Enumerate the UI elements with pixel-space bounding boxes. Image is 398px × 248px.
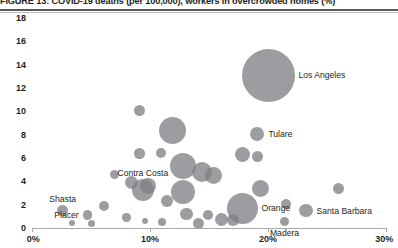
data-bubble[interactable] <box>280 217 289 226</box>
data-bubble[interactable] <box>156 148 166 158</box>
data-bubble[interactable] <box>158 218 166 226</box>
data-bubble[interactable] <box>171 180 195 204</box>
y-axis-tick-label: 4 <box>21 176 26 186</box>
data-bubble[interactable] <box>252 180 269 197</box>
data-bubble[interactable] <box>83 210 93 220</box>
x-axis-tick-label: 30% <box>375 234 393 244</box>
x-axis-line <box>32 228 386 229</box>
data-bubble[interactable] <box>250 127 264 141</box>
scatter-plot-area[interactable]: Los AngelesTulareContra CostaShastaPlace… <box>32 18 386 228</box>
data-bubble[interactable] <box>122 213 130 221</box>
y-axis-tick-label: 0 <box>21 223 26 233</box>
data-bubble[interactable] <box>299 204 313 218</box>
bubble-label-placer: Placer <box>54 210 78 220</box>
x-axis-tick <box>150 228 151 232</box>
data-bubble[interactable] <box>235 147 250 162</box>
figure-title-strip: FIGURE 13: COVID-19 deaths (per 100,000)… <box>0 0 398 9</box>
bubble-label-santa-barbara: Santa Barbara <box>317 206 372 216</box>
x-axis-tick-label: 0% <box>27 234 40 244</box>
data-bubble[interactable] <box>205 167 222 184</box>
y-axis-tick-label: 10 <box>16 106 26 116</box>
data-bubble[interactable] <box>159 117 186 144</box>
x-axis-tick-label: 20% <box>259 234 277 244</box>
data-bubble[interactable] <box>134 148 144 158</box>
bubble-label-shasta: Shasta <box>49 194 76 204</box>
data-bubble[interactable] <box>242 49 295 102</box>
page-title: FIGURE 13: COVID-19 deaths (per 100,000)… <box>0 0 398 7</box>
data-bubble[interactable] <box>142 218 148 224</box>
y-axis-tick-label: 2 <box>21 200 26 210</box>
data-bubble[interactable] <box>227 214 239 226</box>
y-axis-tick-label: 12 <box>16 83 26 93</box>
data-bubble[interactable] <box>161 195 173 207</box>
bubble-label-orange: Orange <box>262 203 291 213</box>
data-bubble[interactable] <box>69 220 75 226</box>
data-bubble[interactable] <box>140 178 156 194</box>
title-divider-thin <box>0 12 398 13</box>
data-bubble[interactable] <box>180 208 192 220</box>
data-bubble[interactable] <box>99 201 109 211</box>
x-axis-tick-label: 10% <box>141 234 159 244</box>
data-bubble[interactable] <box>88 220 95 227</box>
x-axis-tick <box>268 228 269 232</box>
bubble-label-los-angeles: Los Angeles <box>299 70 346 80</box>
y-axis-tick-label: 6 <box>21 153 26 163</box>
data-bubble[interactable] <box>203 210 213 220</box>
y-axis: 024681012141618 <box>0 0 26 248</box>
x-axis-tick <box>32 228 33 232</box>
title-divider-thick <box>0 9 398 11</box>
y-axis-tick-label: 8 <box>21 130 26 140</box>
y-axis-tick-label: 18 <box>16 13 26 23</box>
data-bubble[interactable] <box>252 151 263 162</box>
data-bubble[interactable] <box>333 183 344 194</box>
bubble-label-contra-costa: Contra Costa <box>118 168 169 178</box>
data-bubble[interactable] <box>134 105 145 116</box>
x-axis-tick <box>386 228 387 232</box>
y-axis-tick-label: 16 <box>16 36 26 46</box>
y-axis-tick-label: 14 <box>16 60 26 70</box>
data-bubble[interactable] <box>125 176 138 189</box>
bubble-label-tulare: Tulare <box>268 129 292 139</box>
